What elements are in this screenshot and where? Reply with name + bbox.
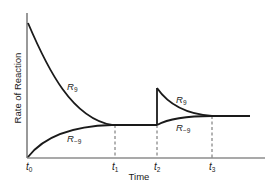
y-axis-title: Rate of Reaction	[12, 53, 23, 124]
label-r-9-after: R−9	[176, 122, 191, 134]
label-r9-after: R9	[176, 94, 187, 106]
tick-t1: t1	[112, 161, 119, 173]
r-9-curve-after-disturbance	[157, 116, 212, 125]
label-r9-initial: R9	[67, 81, 78, 93]
x-axis-title: Time	[129, 171, 150, 182]
tick-t0: t0	[26, 161, 33, 173]
rate-of-reaction-chart: Rate of Reaction Time t0 t1 t2 t3 R9 R−9…	[0, 0, 278, 190]
tick-t2: t2	[154, 161, 161, 173]
r9-curve-initial	[28, 23, 157, 125]
tick-t3: t3	[209, 161, 216, 173]
label-r-9-initial: R−9	[67, 133, 82, 145]
